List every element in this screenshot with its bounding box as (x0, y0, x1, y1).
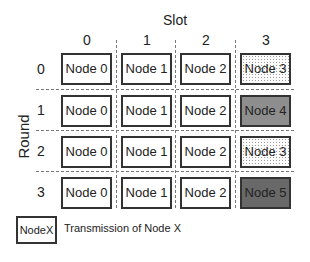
transmission-cell: Node 0 (61, 53, 112, 85)
transmission-cell: Node 0 (61, 136, 112, 168)
transmission-cell: Node 2 (180, 53, 231, 85)
row-label-3: 3 (34, 184, 48, 200)
column-label-0: 0 (61, 32, 113, 48)
transmission-cell-dotted: Node 3 (240, 53, 291, 85)
row-label-1: 1 (34, 102, 48, 118)
transmission-cell: Node 1 (121, 177, 172, 209)
transmission-cell-gray: Node 4 (240, 95, 291, 127)
column-label-1: 1 (121, 32, 173, 48)
legend-description: Transmission of Node X (64, 222, 181, 234)
round-divider (36, 89, 294, 90)
transmission-cell-dotted: Node 3 (240, 136, 291, 168)
transmission-cell: Node 1 (121, 95, 172, 127)
transmission-cell: Node 0 (61, 177, 112, 209)
row-label-2: 2 (34, 143, 48, 159)
slot-divider (175, 40, 176, 208)
slot-divider (235, 40, 236, 208)
slot-divider (116, 40, 117, 208)
transmission-cell: Node 1 (121, 136, 172, 168)
column-label-2: 2 (180, 32, 232, 48)
y-axis-title: Round (15, 112, 32, 162)
transmission-cell: Node 0 (61, 95, 112, 127)
transmission-cell: Node 2 (180, 136, 231, 168)
legend-swatch: NodeX (16, 216, 57, 244)
transmission-cell-dark: Node 5 (240, 177, 291, 209)
transmission-cell: Node 2 (180, 95, 231, 127)
row-label-0: 0 (34, 61, 48, 77)
round-divider (36, 171, 294, 172)
transmission-cell: Node 1 (121, 53, 172, 85)
column-label-3: 3 (240, 32, 292, 48)
x-axis-title: Slot (0, 12, 310, 28)
round-divider (36, 130, 294, 131)
transmission-cell: Node 2 (180, 177, 231, 209)
